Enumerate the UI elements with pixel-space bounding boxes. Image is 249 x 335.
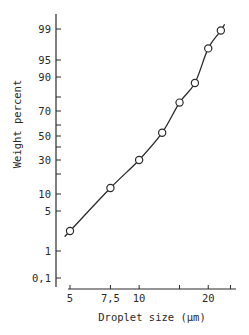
data-point-marker bbox=[66, 227, 73, 234]
x-tick-label: 10 bbox=[133, 292, 146, 304]
x-tick-label: 20 bbox=[202, 292, 215, 304]
data-point-marker bbox=[159, 129, 166, 136]
y-axis: 0,11510305070909599 bbox=[32, 14, 61, 287]
y-tick-label: 10 bbox=[38, 188, 51, 200]
y-tick-label: 90 bbox=[38, 71, 51, 83]
y-axis-label: Weight percent bbox=[11, 80, 23, 169]
data-point-marker bbox=[136, 156, 143, 163]
chart: 0,11510305070909599 57,51020 Droplet siz… bbox=[0, 0, 249, 335]
x-tick-label: 5 bbox=[67, 292, 73, 304]
data-point-marker bbox=[176, 99, 183, 106]
y-tick-label: 0,1 bbox=[32, 272, 51, 284]
y-tick-label: 99 bbox=[38, 23, 51, 35]
x-axis: 57,51020 bbox=[67, 285, 236, 304]
x-tick-label: 7,5 bbox=[101, 292, 120, 304]
y-tick-label: 95 bbox=[38, 54, 51, 66]
data-point-marker bbox=[217, 27, 224, 34]
data-point-marker bbox=[107, 184, 114, 191]
data-point-marker bbox=[205, 45, 212, 52]
y-tick-label: 30 bbox=[38, 154, 51, 166]
y-tick-label: 70 bbox=[38, 105, 51, 117]
x-axis-label: Droplet size (µm) bbox=[98, 311, 205, 323]
data-point-marker bbox=[191, 79, 198, 86]
y-tick-label: 5 bbox=[45, 205, 51, 217]
y-tick-label: 50 bbox=[38, 130, 51, 142]
y-tick-label: 1 bbox=[45, 245, 51, 257]
plot-area bbox=[65, 24, 225, 236]
series-curve bbox=[65, 24, 225, 236]
